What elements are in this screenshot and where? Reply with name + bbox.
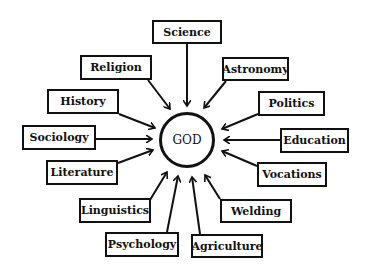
node-label: History	[60, 95, 105, 108]
node-label: Vocations	[262, 168, 321, 181]
arrow	[222, 114, 258, 129]
node-label: Psychology	[108, 238, 177, 251]
arrow	[148, 80, 170, 109]
node-politics: Politics	[258, 91, 325, 116]
node-label: Politics	[269, 97, 315, 110]
node-welding: Welding	[220, 199, 292, 223]
arrow	[118, 150, 153, 163]
arrow	[119, 114, 155, 128]
node-label: Linguistics	[81, 204, 149, 217]
node-agriculture: Agriculture	[191, 234, 263, 258]
arrow	[222, 151, 257, 166]
node-science: Science	[152, 20, 222, 44]
arrow	[192, 177, 200, 234]
node-sociology: Sociology	[22, 125, 96, 150]
node-vocations: Vocations	[257, 162, 327, 187]
node-label: Astronomy	[222, 63, 288, 76]
arrow	[167, 176, 178, 232]
node-religion: Religion	[80, 55, 152, 80]
arrow	[204, 81, 226, 108]
node-psychology: Psychology	[105, 232, 179, 257]
node-label: Literature	[51, 166, 114, 179]
node-astronomy: Astronomy	[222, 57, 289, 81]
node-label: Science	[163, 26, 211, 39]
arrow	[205, 175, 220, 199]
node-linguistics: Linguistics	[79, 198, 151, 223]
node-literature: Literature	[46, 160, 118, 185]
arrow	[150, 172, 167, 200]
node-history: History	[47, 89, 119, 114]
node-label: Sociology	[29, 131, 88, 144]
node-label: Welding	[231, 205, 281, 218]
god-label: GOD	[172, 133, 201, 147]
node-label: Education	[283, 134, 346, 147]
god-circle: GOD	[159, 112, 215, 168]
node-label: Agriculture	[192, 240, 263, 253]
node-education: Education	[280, 128, 349, 153]
node-label: Religion	[90, 61, 142, 74]
